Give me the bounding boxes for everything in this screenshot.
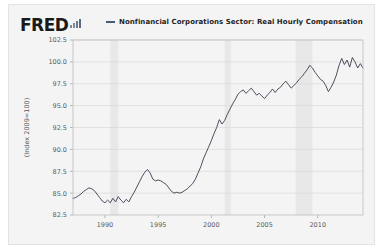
fred-chart-panel: FRED Nonfinancial Corporations Sector: R… [8, 4, 375, 245]
x-axis-tick-marks [105, 215, 318, 218]
y-tick-label: 92.5 [53, 124, 67, 132]
y-axis-tick-marks [70, 40, 73, 215]
x-tick-label: 2005 [256, 221, 273, 229]
y-tick-label: 87.5 [53, 168, 67, 176]
line-chart: 82.585.087.590.092.595.097.5100.0102.5 1… [9, 5, 376, 246]
y-tick-label: 82.5 [53, 211, 67, 219]
x-tick-label: 1995 [150, 221, 167, 229]
x-tick-label: 1990 [97, 221, 114, 229]
x-axis-tick-labels: 19901995200020052010 [97, 221, 326, 229]
y-tick-label: 95.0 [53, 102, 67, 110]
x-tick-label: 2010 [309, 221, 326, 229]
y-tick-label: 85.0 [53, 190, 67, 198]
y-tick-label: 102.5 [48, 36, 67, 44]
y-axis-label: (Index 2009=100) [23, 98, 31, 157]
y-axis-tick-labels: 82.585.087.590.092.595.097.5100.0102.5 [48, 36, 67, 219]
y-tick-label: 90.0 [53, 146, 67, 154]
y-tick-label: 97.5 [53, 80, 67, 88]
y-tick-label: 100.0 [48, 58, 67, 66]
x-tick-label: 2000 [203, 221, 220, 229]
